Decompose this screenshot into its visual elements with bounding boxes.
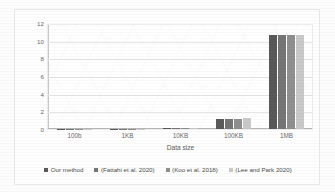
legend-item[interactable]: (Lee and Park 2020) [229, 166, 292, 173]
legend-label: (Koo et al. 2018) [172, 166, 218, 173]
x-tick-label: 100b [48, 132, 101, 139]
x-tick-label: 1KB [101, 132, 154, 139]
bar [181, 128, 189, 129]
y-tick-label: 12 [24, 21, 44, 27]
chart-legend: Our method(Fattahi et al. 2020)(Koo et a… [20, 166, 316, 173]
x-tick-label: 1MB [260, 132, 313, 139]
y-tick-label: 10 [24, 39, 44, 45]
bar [190, 128, 198, 129]
legend-swatch-icon [229, 168, 233, 172]
legend-swatch-icon [166, 168, 170, 172]
legend-swatch-icon [94, 168, 98, 172]
bar-group [154, 24, 207, 129]
y-tick-label: 8 [24, 56, 44, 62]
figure-container: Computation time (ms) 024681012 100b1KB1… [0, 0, 335, 192]
x-axis-title: Data size [48, 144, 313, 151]
x-axis-ticks: 100b1KB10KB100KB1MB [48, 132, 313, 139]
bar-group [48, 24, 101, 129]
bar [287, 35, 295, 129]
y-tick-label: 2 [24, 109, 44, 115]
legend-item[interactable]: (Fattahi et al. 2020) [94, 166, 154, 173]
x-tick-label: 100KB [207, 132, 260, 139]
bar-group [260, 24, 313, 129]
bar [163, 128, 171, 129]
bar [296, 35, 304, 129]
y-axis-ticks: 024681012 [22, 24, 44, 130]
y-tick-label: 0 [24, 127, 44, 133]
legend-label: (Fattahi et al. 2020) [101, 166, 155, 173]
legend-item[interactable]: (Koo et al. 2018) [166, 166, 218, 173]
bar-groups [48, 24, 313, 129]
legend-item[interactable]: Our method [44, 166, 83, 173]
bar-group [101, 24, 154, 129]
x-tick-label: 10KB [154, 132, 207, 139]
y-tick-label: 4 [24, 92, 44, 98]
bar [225, 119, 233, 129]
bar [243, 118, 251, 129]
bar [216, 119, 224, 129]
y-tick-label: 6 [24, 74, 44, 80]
bar [234, 119, 242, 129]
legend-swatch-icon [44, 168, 48, 172]
bar [269, 35, 277, 129]
bar [172, 128, 180, 129]
bar-group [207, 24, 260, 129]
bar [278, 35, 286, 129]
legend-label: (Lee and Park 2020) [235, 166, 291, 173]
legend-label: Our method [51, 166, 84, 173]
